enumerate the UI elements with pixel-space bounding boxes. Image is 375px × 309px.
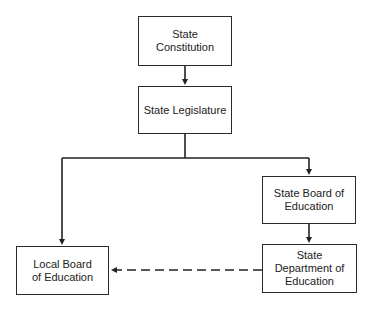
arrowhead-icon [111, 267, 117, 273]
node-local-board-of-education: Local Board of Education [16, 246, 109, 295]
arrowhead-icon [306, 237, 312, 243]
education-governance-diagram: State Constitution State Legislature Sta… [0, 0, 375, 309]
node-state-constitution: State Constitution [138, 16, 232, 66]
node-label: State Board of Education [273, 187, 345, 213]
arrowhead-icon [306, 169, 312, 175]
arrowhead-icon [182, 79, 188, 85]
node-label: Local Board of Education [31, 258, 94, 284]
node-state-board-of-education: State Board of Education [262, 176, 356, 224]
node-label: State Department of Education [267, 249, 352, 288]
node-label: State Legislature [144, 104, 227, 117]
node-state-department-of-education: State Department of Education [262, 244, 357, 293]
arrowhead-icon [59, 239, 65, 245]
node-state-legislature: State Legislature [138, 86, 232, 134]
node-label: State Constitution [143, 28, 227, 54]
